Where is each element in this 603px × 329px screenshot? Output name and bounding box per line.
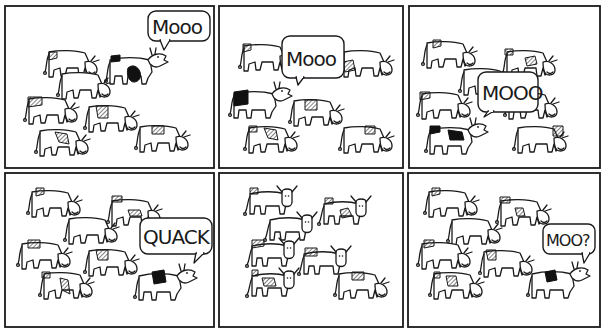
speech-bubble-3: MOOO — [478, 72, 543, 117]
panel-2: Mooo — [219, 6, 403, 168]
speech-bubble-2: Mooo — [282, 36, 344, 85]
speech-text-2: Mooo — [286, 47, 337, 71]
panel-5 — [219, 173, 403, 327]
speech-text-6: MOO? — [546, 231, 590, 250]
speech-text-4: QUACK — [143, 225, 211, 249]
speech-text-3: MOOO — [482, 81, 543, 105]
comic-strip: Mooo Mooo — [0, 0, 603, 329]
panel-1: Mooo — [5, 6, 214, 168]
speech-text-1: Mooo — [152, 15, 203, 39]
panel-3: MOOO — [409, 6, 600, 168]
panel-4: QUACK — [5, 173, 214, 327]
panel-6: MOO? — [408, 173, 600, 327]
